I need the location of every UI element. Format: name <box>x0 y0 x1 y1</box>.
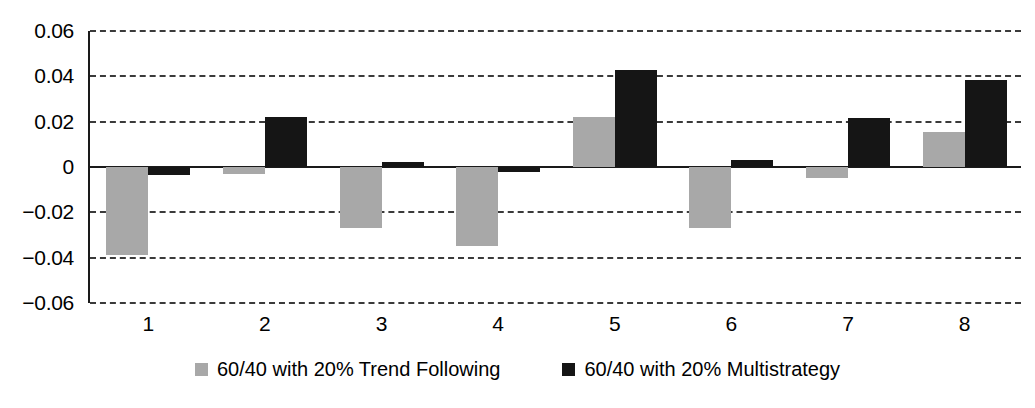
x-tick-label: 8 <box>945 312 985 336</box>
x-tick-label: 1 <box>128 312 168 336</box>
bar <box>456 167 498 246</box>
bar <box>615 70 657 167</box>
y-tick-label: 0.06 <box>34 20 74 41</box>
bar <box>498 167 540 172</box>
x-axis-tick-labels: 12345678 <box>90 312 1023 346</box>
y-axis-tick-labels: 0.060.040.020−0.02−0.04−0.06 <box>0 0 88 330</box>
bar <box>806 167 848 178</box>
bar <box>148 167 190 175</box>
x-tick-label: 4 <box>478 312 518 336</box>
chart-legend: 60/40 with 20% Trend Following60/40 with… <box>0 358 1035 380</box>
bar <box>340 167 382 228</box>
legend-swatch-black-icon <box>562 363 575 376</box>
bar <box>573 117 615 167</box>
y-tick-label: −0.06 <box>22 292 74 313</box>
y-tick-label: −0.04 <box>22 247 74 268</box>
x-tick-label: 6 <box>711 312 751 336</box>
x-tick-label: 2 <box>245 312 285 336</box>
bar <box>731 160 773 167</box>
legend-label: 60/40 with 20% Multistrategy <box>584 358 840 380</box>
x-tick-label: 3 <box>362 312 402 336</box>
bar <box>848 118 890 167</box>
x-tick-label: 7 <box>828 312 868 336</box>
bar <box>382 162 424 167</box>
bar <box>265 117 307 167</box>
bar <box>223 167 265 174</box>
y-tick-label: 0.04 <box>34 65 74 86</box>
legend-item[interactable]: 60/40 with 20% Multistrategy <box>562 358 840 380</box>
plot-area <box>88 31 1021 303</box>
bar <box>965 80 1007 167</box>
legend-item[interactable]: 60/40 with 20% Trend Following <box>195 358 501 380</box>
bar <box>106 167 148 255</box>
y-tick-label: 0.02 <box>34 111 74 132</box>
y-tick-label: 0 <box>63 156 74 177</box>
bars-layer <box>90 31 1021 303</box>
bar <box>689 167 731 228</box>
bar-chart: 0.060.040.020−0.02−0.04−0.06 12345678 60… <box>0 0 1035 408</box>
legend-swatch-gray-icon <box>195 363 208 376</box>
x-tick-label: 5 <box>595 312 635 336</box>
legend-label: 60/40 with 20% Trend Following <box>217 358 501 380</box>
y-tick-label: −0.02 <box>22 201 74 222</box>
bar <box>923 132 965 167</box>
